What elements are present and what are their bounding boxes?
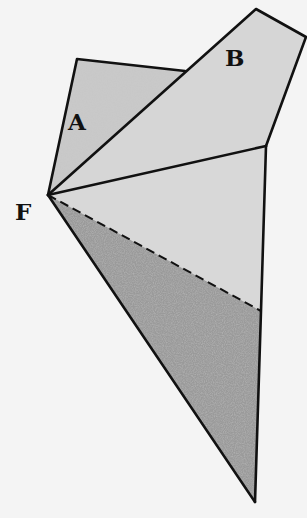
folded-paper-diagram: A B F (0, 0, 307, 518)
label-b: B (225, 44, 244, 71)
label-f: F (15, 198, 32, 225)
label-a: A (67, 108, 87, 135)
